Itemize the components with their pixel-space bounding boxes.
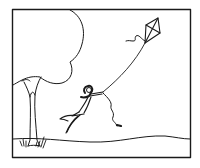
- girl-head: [87, 88, 92, 93]
- picture-frame: [13, 10, 191, 158]
- tree-canopy: [13, 10, 84, 85]
- tree-trunk: [22, 77, 41, 146]
- kite: [145, 18, 160, 43]
- kite-illustration: Line drawing of a girl holding a kite st…: [0, 0, 200, 168]
- kite-tail: [126, 36, 145, 41]
- ribbon-end: [117, 125, 121, 126]
- kite-string: [103, 43, 145, 92]
- ribbon: [103, 93, 117, 126]
- illustration-svg: [0, 0, 200, 168]
- girl: [60, 86, 103, 133]
